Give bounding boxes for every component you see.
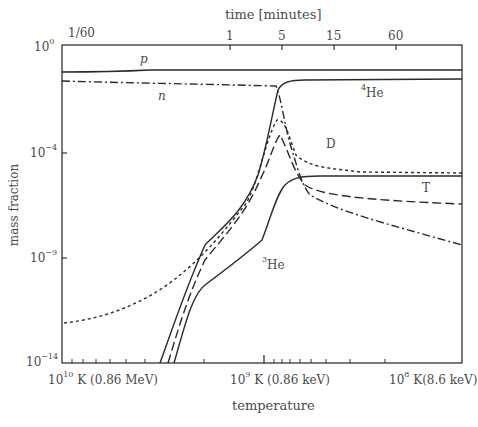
curve-he4 — [160, 79, 462, 363]
y-tick-minus14: 10−14 — [26, 355, 58, 369]
label-he3: 3He — [262, 258, 285, 272]
top-tick-60: 60 — [388, 29, 403, 43]
top-ticks — [230, 45, 396, 50]
left-ticks — [62, 153, 67, 258]
y-axis-title: mass fraction — [7, 164, 21, 246]
plot-frame — [62, 45, 462, 363]
x-tick-1e10: 1010 K (0.86 MeV) — [48, 373, 158, 387]
x-axis-title: temperature — [232, 398, 315, 413]
top-tick-5: 5 — [278, 29, 286, 43]
top-tick-1-60: 1/60 — [68, 26, 95, 40]
curve-d — [64, 120, 462, 323]
y-tick-minus9: 10−9 — [30, 251, 57, 265]
top-axis-title: time [minutes] — [225, 7, 322, 22]
curve-he3 — [174, 176, 462, 363]
nucleosynthesis-chart — [0, 0, 478, 427]
label-he4: 4He — [361, 86, 384, 100]
x-tick-1e8: 108 K(8.6 keV) — [389, 373, 477, 387]
y-tick-0: 100 — [34, 40, 54, 54]
label-n: n — [158, 89, 166, 103]
y-tick-minus4: 10−4 — [30, 146, 57, 160]
curve-t — [168, 135, 462, 363]
label-d: D — [326, 137, 336, 151]
curve-p — [62, 70, 462, 72]
x-tick-1e9: 109 K (0.86 keV) — [230, 373, 330, 387]
bottom-ticks — [72, 355, 385, 363]
top-tick-15: 15 — [326, 29, 341, 43]
top-tick-1: 1 — [226, 29, 234, 43]
label-p: p — [140, 52, 148, 66]
label-t: T — [422, 181, 430, 195]
